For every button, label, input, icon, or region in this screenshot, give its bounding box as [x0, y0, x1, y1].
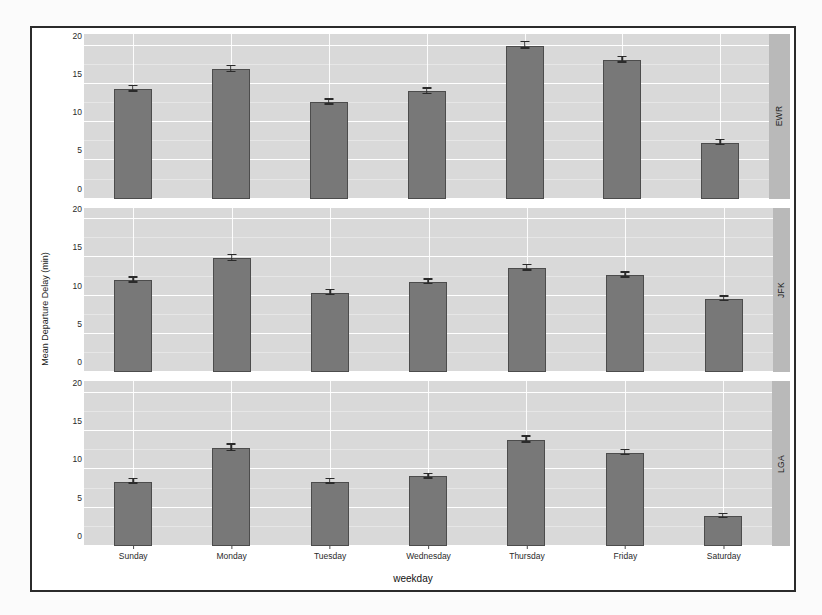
x-tick-label: Friday	[614, 546, 638, 561]
bar-slot	[84, 381, 182, 546]
bar[interactable]	[213, 258, 251, 372]
bar-slot	[576, 208, 674, 373]
bar-series	[84, 208, 773, 373]
error-bar-cap-upper	[226, 65, 235, 67]
error-bar-cap-lower	[620, 454, 629, 456]
error-bar-cap-upper	[716, 139, 725, 141]
y-axis-title-text: Mean Departure Delay (min)	[40, 252, 50, 366]
bar-slot	[378, 34, 476, 199]
bar-slot	[281, 381, 379, 546]
bar[interactable]	[701, 143, 739, 199]
error-bar-cap-lower	[522, 269, 531, 271]
y-tick-label: 20	[73, 204, 84, 214]
y-axis-lga: 05101520	[54, 381, 84, 546]
facet-panels: 05101520EWR05101520JFK05101520LGA	[54, 34, 790, 546]
error-bar-cap-lower	[227, 260, 236, 262]
bar[interactable]	[603, 60, 641, 199]
error-bar-cap-upper	[424, 473, 433, 475]
bar-slot	[573, 34, 671, 199]
bar[interactable]	[705, 299, 743, 373]
x-axis: SundayMondayTuesdayWednesdayThursdayFrid…	[54, 546, 790, 566]
bar-series	[84, 34, 769, 199]
bar-slot	[84, 34, 182, 199]
bar[interactable]	[311, 293, 349, 373]
plot-area-lga	[84, 381, 772, 546]
bar[interactable]	[409, 282, 447, 372]
bar-slot	[182, 381, 280, 546]
facet-strip-label: LGA	[776, 455, 786, 473]
bar[interactable]	[114, 89, 152, 199]
bar[interactable]	[704, 516, 742, 546]
y-axis-ewr: 05101520	[54, 34, 84, 199]
bar-series	[84, 381, 772, 546]
bar[interactable]	[409, 476, 447, 546]
bar[interactable]	[114, 482, 152, 546]
error-bar-cap-upper	[325, 478, 334, 480]
y-tick-label: 20	[73, 31, 84, 41]
error-bar-cap-lower	[326, 294, 335, 296]
bar[interactable]	[508, 268, 546, 372]
x-tick-label: Saturday	[707, 546, 741, 561]
error-bar-cap-lower	[424, 477, 433, 479]
error-bar-cap-lower	[422, 93, 431, 95]
error-bar-cap-upper	[522, 435, 531, 437]
bar[interactable]	[606, 275, 644, 372]
y-tick-label: 0	[77, 184, 84, 194]
y-tick-label: 10	[73, 281, 84, 291]
bar-slot	[575, 381, 673, 546]
error-bar-cap-lower	[618, 61, 627, 63]
y-tick-label: 5	[77, 319, 84, 329]
facet-panel-lga: 05101520LGA	[54, 381, 790, 546]
error-bar-cap-lower	[522, 441, 531, 443]
x-tick-label: Tuesday	[314, 546, 346, 561]
bar[interactable]	[507, 440, 545, 546]
facet-strip-label: JFK	[776, 282, 786, 298]
error-bar-cap-lower	[324, 103, 333, 105]
figure-frame: Mean Departure Delay (min) 05101520EWR05…	[30, 26, 796, 592]
y-tick-label: 5	[77, 145, 84, 155]
error-bar-cap-upper	[324, 98, 333, 100]
error-bar-cap-upper	[718, 513, 727, 515]
facet-strip-ewr: EWR	[769, 34, 790, 199]
plot-area-ewr	[84, 34, 769, 199]
bar[interactable]	[212, 448, 250, 546]
error-bar-cap-lower	[325, 482, 334, 484]
facet-strip-jfk: JFK	[773, 208, 790, 373]
error-bar-cap-lower	[520, 47, 529, 49]
bar[interactable]	[606, 453, 644, 546]
bar[interactable]	[212, 69, 250, 198]
bar-slot	[182, 34, 280, 199]
bar[interactable]	[114, 280, 152, 372]
y-tick-label: 0	[77, 357, 84, 367]
bar-slot	[281, 208, 379, 373]
bar[interactable]	[506, 46, 544, 199]
error-bar-cap-upper	[424, 278, 433, 280]
facet-panel-ewr: 05101520EWR	[54, 34, 790, 199]
y-tick-label: 5	[77, 493, 84, 503]
y-axis-jfk: 05101520	[54, 208, 84, 373]
error-bar-cap-upper	[618, 56, 627, 58]
facet-strip-label: EWR	[775, 106, 785, 127]
x-axis-title: weekday	[32, 573, 794, 584]
error-bar-cap-lower	[718, 517, 727, 519]
bar-slot	[280, 34, 378, 199]
error-bar-cap-lower	[227, 450, 236, 452]
bar[interactable]	[408, 91, 446, 198]
error-bar-cap-lower	[716, 144, 725, 146]
facet-panel-jfk: 05101520JFK	[54, 208, 790, 373]
error-bar-cap-lower	[128, 90, 137, 92]
y-tick-label: 10	[73, 107, 84, 117]
bar[interactable]	[310, 102, 348, 199]
y-tick-label: 15	[73, 242, 84, 252]
bar[interactable]	[311, 482, 349, 546]
error-bar-cap-upper	[522, 264, 531, 266]
plot-root: Mean Departure Delay (min) 05101520EWR05…	[32, 28, 794, 590]
y-tick-label: 15	[73, 416, 84, 426]
error-bar-cap-upper	[520, 41, 529, 43]
error-bar-cap-upper	[326, 289, 335, 291]
y-tick-label: 10	[73, 454, 84, 464]
bar-slot	[182, 208, 280, 373]
y-axis-title: Mean Departure Delay (min)	[36, 28, 54, 590]
x-axis-ticks: SundayMondayTuesdayWednesdayThursdayFrid…	[84, 546, 773, 566]
error-bar-cap-lower	[719, 300, 728, 302]
